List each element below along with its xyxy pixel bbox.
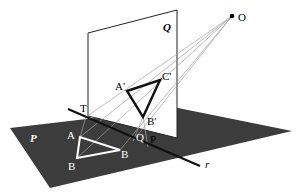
label-a: A bbox=[67, 129, 75, 141]
projection-diagram: O Q P T A B B Q P A' C' B' r bbox=[0, 0, 302, 192]
label-p-point: P bbox=[150, 133, 156, 145]
label-r: r bbox=[205, 158, 210, 170]
label-plane-p: P bbox=[30, 132, 37, 144]
label-c-prime: C' bbox=[162, 70, 171, 82]
point-o bbox=[230, 14, 235, 19]
label-b-prime: B' bbox=[147, 115, 156, 127]
label-b-right: B bbox=[121, 148, 128, 160]
label-q-point: Q bbox=[136, 131, 144, 143]
label-t: T bbox=[80, 102, 87, 114]
label-plane-q: Q bbox=[163, 21, 171, 33]
label-o: O bbox=[238, 11, 246, 23]
diagram-canvas: O Q P T A B B Q P A' C' B' r bbox=[0, 0, 302, 192]
label-a-prime: A' bbox=[115, 80, 125, 92]
label-b-left: B bbox=[68, 160, 75, 172]
